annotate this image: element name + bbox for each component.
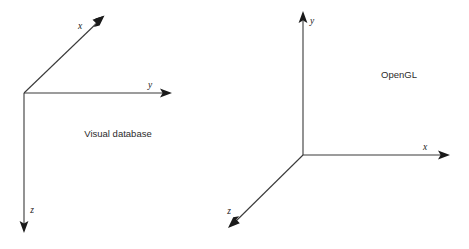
axis-label-y-opengl: y — [309, 16, 315, 26]
axis-z-opengl — [228, 155, 303, 228]
axis-y-opengl — [299, 11, 308, 155]
caption-visual-database: Visual database — [84, 128, 151, 139]
axis-x-opengl — [303, 151, 450, 160]
axis-z-line — [235, 155, 304, 223]
axis-label-y-visual-database: y — [147, 80, 153, 90]
axis-z-visual-database — [20, 93, 29, 233]
axis-label-x-visual-database: x — [77, 21, 83, 31]
axis-z-arrowhead — [228, 216, 240, 228]
axis-label-z-opengl: z — [226, 206, 231, 216]
diagram-visual-database: x y z Visual database — [20, 16, 172, 234]
diagram-opengl: y x z OpenGL — [226, 11, 450, 228]
caption-opengl: OpenGL — [381, 69, 417, 80]
axis-x-line — [24, 20, 101, 94]
figure-canvas: x y z Visual database y — [0, 0, 469, 249]
axis-label-z-visual-database: z — [29, 205, 34, 215]
axis-x-visual-database — [24, 16, 105, 94]
coordinate-systems-diagram: x y z Visual database y — [0, 0, 469, 249]
axis-label-x-opengl: x — [422, 142, 428, 152]
